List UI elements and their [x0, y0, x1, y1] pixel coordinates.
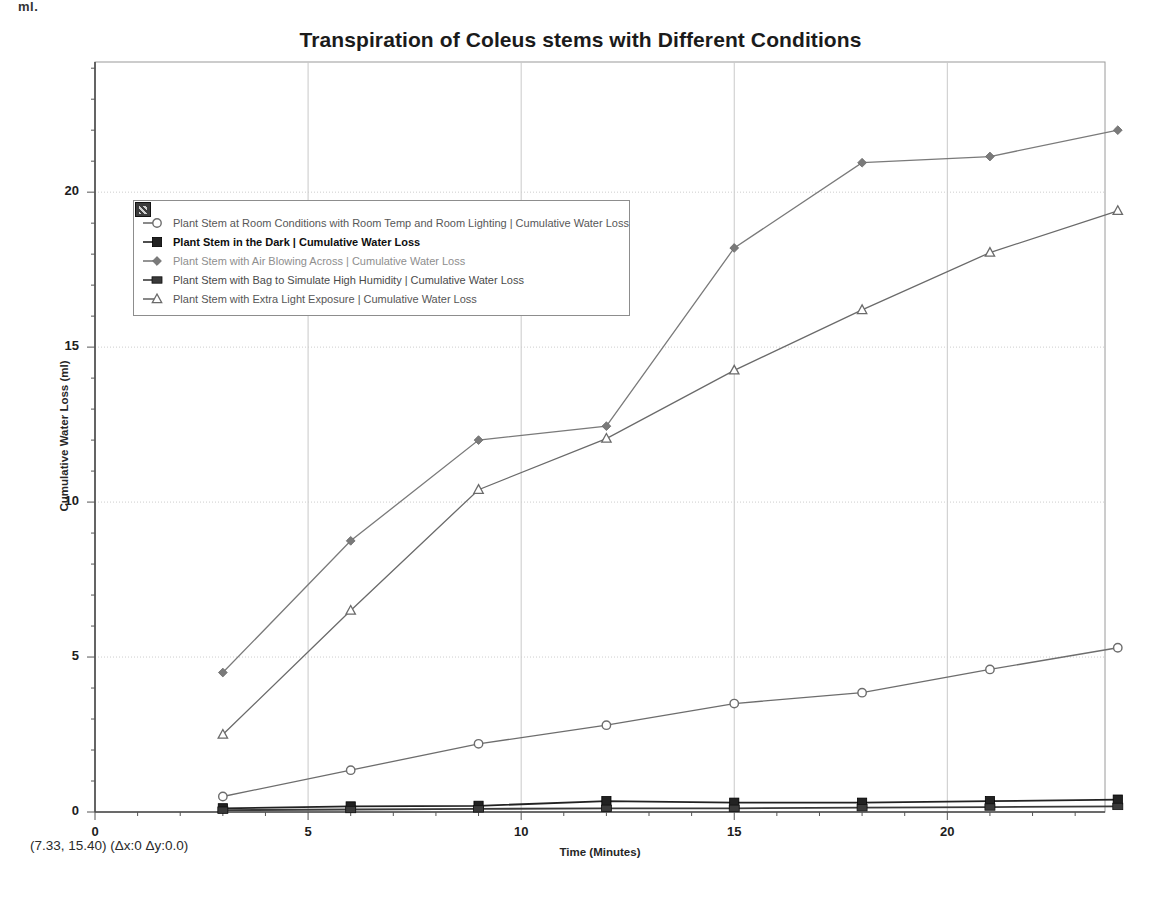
legend-item-label: Plant Stem at Room Conditions with Room … — [173, 217, 629, 229]
y-tick-label: 20 — [43, 183, 79, 198]
plot-canvas — [0, 0, 1161, 901]
data-point-filled-rect — [346, 806, 356, 812]
data-point-filled-rect — [474, 806, 484, 812]
data-point-filled-diamond — [153, 257, 162, 266]
legend-item[interactable]: Plant Stem at Room Conditions with Room … — [142, 214, 621, 232]
data-point-filled-rect — [857, 804, 867, 810]
data-point-filled-rect — [729, 805, 739, 811]
legend-item[interactable]: Plant Stem with Extra Light Exposure | C… — [142, 290, 621, 308]
x-tick-label: 10 — [503, 824, 539, 839]
data-point-open-circle — [1114, 644, 1122, 652]
legend-marker-filled-rect-icon — [142, 273, 168, 287]
legend-item[interactable]: Plant Stem with Air Blowing Across | Cum… — [142, 252, 621, 270]
data-point-filled-rect — [218, 807, 228, 813]
legend-item-label: Plant Stem with Extra Light Exposure | C… — [173, 293, 477, 305]
x-tick-label: 0 — [77, 824, 113, 839]
cursor-coordinate-readout: (7.33, 15.40) (Δx:0 Δy:0.0) — [30, 838, 188, 853]
y-tick-label: 0 — [43, 803, 79, 818]
plot-frame — [95, 62, 1105, 812]
legend-marker-open-circle-icon — [142, 216, 168, 230]
legend-item-label: Plant Stem with Bag to Simulate High Hum… — [173, 274, 524, 286]
data-point-open-circle — [858, 688, 866, 696]
data-point-filled-square — [602, 797, 611, 806]
data-point-open-triangle — [1113, 206, 1122, 215]
y-tick-label: 5 — [43, 648, 79, 663]
data-point-filled-rect — [152, 277, 162, 283]
data-point-filled-square — [152, 237, 161, 246]
legend-item-label: Plant Stem in the Dark | Cumulative Wate… — [173, 236, 420, 248]
data-point-open-circle — [346, 766, 354, 774]
y-tick-label: 15 — [43, 338, 79, 353]
data-point-filled-rect — [1113, 803, 1123, 809]
legend-item[interactable]: Plant Stem in the Dark | Cumulative Wate… — [142, 233, 621, 251]
x-axis-title: Time (Minutes) — [430, 846, 770, 858]
legend-item-label: Plant Stem with Air Blowing Across | Cum… — [173, 255, 465, 267]
data-point-open-circle — [602, 721, 610, 729]
data-point-open-circle — [219, 792, 227, 800]
data-point-open-circle — [153, 219, 161, 227]
legend-marker-filled-square-icon — [142, 235, 168, 249]
y-tick-label: 10 — [43, 493, 79, 508]
legend-marker-filled-diamond-icon — [142, 254, 168, 268]
data-point-filled-rect — [601, 805, 611, 811]
data-point-filled-diamond — [1113, 126, 1122, 135]
data-point-open-circle — [986, 665, 994, 673]
data-point-open-circle — [474, 740, 482, 748]
x-tick-label: 5 — [290, 824, 326, 839]
legend-panel[interactable]: Plant Stem at Room Conditions with Room … — [133, 200, 630, 316]
legend-marker-open-triangle-icon — [142, 292, 168, 306]
legend-item[interactable]: Plant Stem with Bag to Simulate High Hum… — [142, 271, 621, 289]
data-point-open-circle — [730, 699, 738, 707]
legend-resize-grip-icon[interactable] — [135, 202, 151, 217]
x-tick-label: 20 — [929, 824, 965, 839]
chart-screenshot: ml. Transpiration of Coleus stems with D… — [0, 0, 1161, 901]
data-point-filled-rect — [985, 804, 995, 810]
x-tick-label: 15 — [716, 824, 752, 839]
